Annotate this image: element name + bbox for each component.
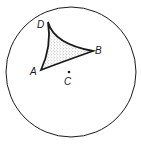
hyperbolic-triangle	[41, 22, 93, 70]
label-a: A	[29, 66, 37, 77]
disk-boundary	[6, 7, 136, 137]
diagram-canvas: D B A C	[0, 0, 141, 145]
point-c	[68, 71, 71, 74]
poincare-disk-figure: D B A C	[0, 0, 141, 145]
label-c: C	[64, 76, 72, 87]
label-b: B	[95, 45, 102, 56]
label-d: D	[37, 19, 44, 30]
